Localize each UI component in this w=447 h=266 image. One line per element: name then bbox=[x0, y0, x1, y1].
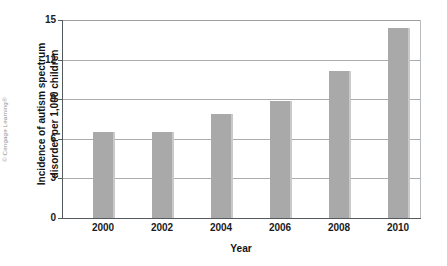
y-tick-mark bbox=[58, 178, 63, 179]
gridline-6 bbox=[63, 139, 420, 140]
bar-2000[interactable] bbox=[93, 132, 115, 218]
bar-2004[interactable] bbox=[211, 114, 233, 218]
y-tick-label: 0 bbox=[34, 212, 56, 223]
x-tick-label: 2000 bbox=[80, 222, 126, 233]
x-axis-title: Year bbox=[62, 243, 420, 254]
y-tick-label: 9 bbox=[34, 93, 56, 104]
y-tick-label: 15 bbox=[34, 14, 56, 25]
gridline-15 bbox=[63, 20, 420, 21]
x-axis-tick-labels: 2000 2002 2004 2006 2008 2010 bbox=[62, 222, 420, 238]
x-tick-label: 2002 bbox=[139, 222, 185, 233]
bar-2010[interactable] bbox=[388, 28, 410, 218]
bar-2006[interactable] bbox=[270, 101, 292, 218]
x-tick-label: 2010 bbox=[375, 222, 421, 233]
gridline-3 bbox=[63, 178, 420, 179]
x-axis-line bbox=[62, 218, 421, 219]
y-tick-label: 6 bbox=[34, 133, 56, 144]
y-tick-label: 12 bbox=[34, 54, 56, 65]
bar-2002[interactable] bbox=[152, 132, 174, 218]
bar-2008[interactable] bbox=[329, 71, 351, 218]
gridline-12 bbox=[63, 60, 420, 61]
x-tick-label: 2004 bbox=[198, 222, 244, 233]
y-tick-mark bbox=[58, 139, 63, 140]
y-tick-label: 3 bbox=[34, 172, 56, 183]
x-tick-label: 2006 bbox=[257, 222, 303, 233]
y-tick-mark bbox=[58, 60, 63, 61]
x-tick-label: 2008 bbox=[316, 222, 362, 233]
y-tick-mark bbox=[58, 20, 63, 21]
bar-chart-figure: © Cengage Learning® Incidence of autism … bbox=[0, 0, 447, 266]
plot-area bbox=[62, 20, 421, 218]
copyright-notice: © Cengage Learning® bbox=[1, 62, 8, 162]
gridline-9 bbox=[63, 99, 420, 100]
y-axis-tick-labels: 0 3 6 9 12 15 bbox=[32, 20, 56, 218]
y-tick-mark bbox=[58, 99, 63, 100]
